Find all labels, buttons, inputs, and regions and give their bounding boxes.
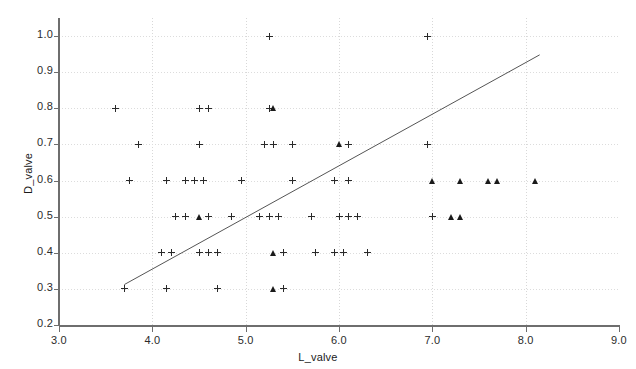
x-axis-tick-label: 9.0 <box>597 334 636 346</box>
y-axis-tick-label: 0.6 <box>15 173 53 185</box>
x-axis-tick-label: 3.0 <box>37 334 81 346</box>
y-axis-tick-label: 0.4 <box>15 245 53 257</box>
x-axis-title: L_valve <box>0 351 636 363</box>
y-axis-title: D_valve <box>22 152 34 193</box>
y-axis-tick <box>54 108 59 109</box>
y-axis-tick-label: 0.2 <box>15 317 53 329</box>
y-axis-tick <box>54 36 59 37</box>
y-axis-tick <box>54 144 59 145</box>
y-axis-tick <box>54 325 59 326</box>
x-axis-tick <box>619 327 620 332</box>
x-axis-tick <box>246 327 247 332</box>
x-axis-tick-label: 8.0 <box>504 334 548 346</box>
x-axis-tick <box>339 327 340 332</box>
y-axis-tick <box>54 217 59 218</box>
y-axis-tick-label: 0.7 <box>15 136 53 148</box>
y-axis-line <box>58 18 60 326</box>
y-axis-tick <box>54 72 59 73</box>
scatter-chart: 0.20.30.40.50.60.70.80.91.03.04.05.06.07… <box>0 0 636 369</box>
y-axis-tick-label: 0.5 <box>15 209 53 221</box>
y-axis-tick <box>54 289 59 290</box>
x-axis-tick <box>152 327 153 332</box>
y-axis-tick-label: 0.3 <box>15 281 53 293</box>
y-axis-tick-label: 0.9 <box>15 64 53 76</box>
x-axis-tick <box>526 327 527 332</box>
x-axis-tick <box>59 327 60 332</box>
x-axis-tick-label: 7.0 <box>410 334 454 346</box>
y-axis-tick <box>54 181 59 182</box>
y-axis-tick-label: 1.0 <box>15 28 53 40</box>
regression-line <box>0 0 636 369</box>
y-axis-tick-label: 0.8 <box>15 100 53 112</box>
x-axis-tick <box>432 327 433 332</box>
x-axis-tick-label: 6.0 <box>317 334 361 346</box>
y-axis-tick <box>54 253 59 254</box>
x-axis-tick-label: 4.0 <box>130 334 174 346</box>
x-axis-tick-label: 5.0 <box>224 334 268 346</box>
